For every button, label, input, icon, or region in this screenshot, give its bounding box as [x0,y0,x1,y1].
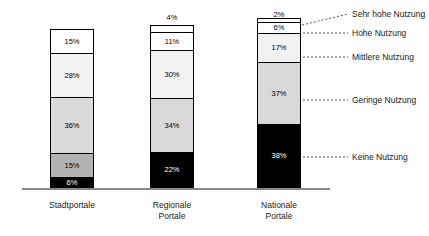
legend-label: Sehr hohe Nutzung [352,9,425,19]
legend-label: Keine Nutzung [352,152,408,162]
legend-label: Geringe Nutzung [352,95,416,105]
legend-item-geringe-nutzung[interactable]: Geringe Nutzung [352,95,416,105]
stacked-bar-chart: 15% 28% 36% 15% 6% 4% 11% 30% [0,0,429,236]
legend-label: Hohe Nutzung [352,28,406,38]
legend-label: Mittlere Nutzung [352,52,414,62]
legend-item-keine-nutzung[interactable]: Keine Nutzung [352,152,408,162]
legend-item-hohe-nutzung[interactable]: Hohe Nutzung [352,28,406,38]
leader-line-sehr-hohe [302,14,348,25]
legend-item-mittlere-nutzung[interactable]: Mittlere Nutzung [352,52,414,62]
legend-item-sehr-hohe-nutzung[interactable]: Sehr hohe Nutzung [352,9,425,19]
